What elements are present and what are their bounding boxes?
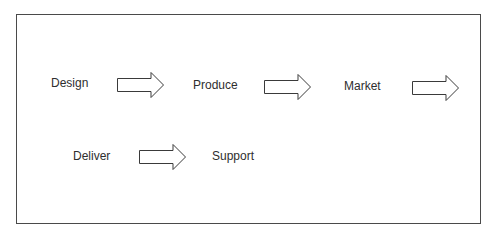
diagram-frame [16, 14, 481, 224]
block-arrow-right-icon [264, 74, 312, 100]
block-arrow-right-icon [139, 144, 187, 170]
step-support: Support [212, 149, 254, 163]
step-market: Market [344, 79, 381, 93]
step-produce: Produce [193, 78, 238, 92]
step-deliver: Deliver [73, 149, 110, 163]
block-arrow-right-icon [117, 72, 165, 98]
step-design: Design [51, 76, 88, 90]
block-arrow-right-icon [412, 75, 460, 101]
